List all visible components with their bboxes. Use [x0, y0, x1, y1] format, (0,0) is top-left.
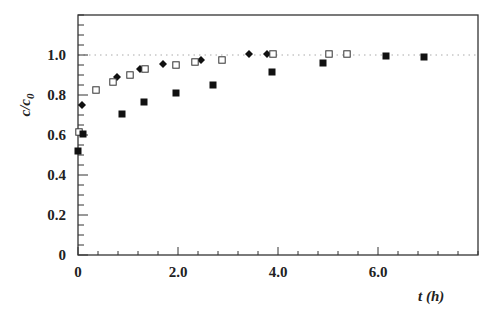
series-open-square [76, 51, 350, 135]
svg-text:c/c0: c/c0 [17, 93, 36, 116]
y-tick-label: 0.6 [47, 127, 66, 143]
y-axis-title-subscript: 0 [24, 93, 36, 99]
filled-square-marker [119, 111, 126, 118]
series-filled-square [75, 53, 428, 155]
plot-border [78, 15, 478, 255]
filled-square-marker [210, 82, 217, 89]
filled-square-marker [141, 99, 148, 106]
data-points [75, 50, 428, 155]
diamond-marker [78, 101, 86, 109]
filled-square-marker [421, 54, 428, 61]
y-axis-title: c/c0 [17, 93, 36, 116]
open-square-marker [173, 62, 179, 68]
filled-square-marker [383, 53, 390, 60]
plot-frame [78, 15, 478, 255]
open-square-marker [192, 59, 198, 65]
x-axis-tick-labels: 02.04.06.0 [74, 264, 387, 280]
x-axis-ticks [78, 247, 478, 255]
filled-square-marker [320, 60, 327, 67]
filled-square-marker [173, 90, 180, 97]
filled-square-marker [80, 131, 87, 138]
y-tick-label: 0.4 [47, 167, 66, 183]
x-tick-label: 2.0 [169, 264, 188, 280]
filled-square-marker [269, 69, 276, 76]
diamond-marker [245, 50, 253, 58]
x-tick-label: 0 [74, 264, 82, 280]
open-square-marker [219, 57, 225, 63]
filled-square-marker [75, 148, 82, 155]
y-tick-label: 0 [59, 247, 67, 263]
y-axis-title-main: c/c [17, 99, 33, 117]
open-square-marker [344, 51, 350, 57]
open-square-marker [142, 66, 148, 72]
open-square-marker [93, 87, 99, 93]
x-tick-label: 6.0 [369, 264, 388, 280]
y-axis-tick-labels: 00.20.40.60.81.0 [47, 47, 66, 263]
y-tick-label: 1.0 [47, 47, 66, 63]
open-square-marker [127, 72, 133, 78]
diamond-marker [159, 60, 167, 68]
y-tick-label: 0.8 [47, 87, 66, 103]
x-tick-label: 4.0 [269, 264, 288, 280]
scatter-chart: 02.04.06.0 00.20.40.60.81.0 t (h) c/c0 [0, 0, 490, 315]
series-filled-diamond [78, 50, 271, 109]
open-square-marker [326, 51, 332, 57]
x-axis-title: t (h) [418, 288, 444, 305]
y-tick-label: 0.2 [47, 207, 66, 223]
open-square-marker [110, 79, 116, 85]
open-square-marker [270, 51, 276, 57]
